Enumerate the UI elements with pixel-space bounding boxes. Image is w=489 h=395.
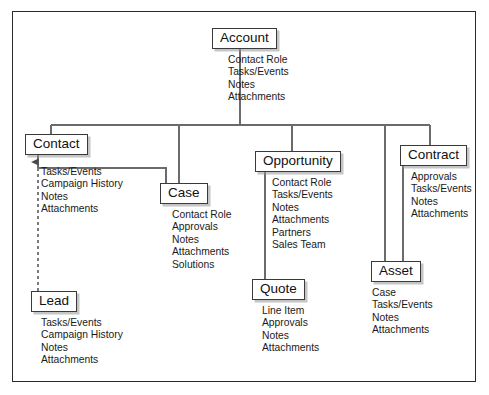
list-item: Attachments bbox=[272, 214, 333, 226]
list-item: Tasks/Events bbox=[372, 299, 433, 311]
node-quote-items: Line Item Approvals Notes Attachments bbox=[262, 305, 319, 355]
list-item: Attachments bbox=[372, 324, 433, 336]
list-item: Notes bbox=[41, 191, 123, 203]
list-item: Attachments bbox=[41, 203, 123, 215]
node-asset-items: Case Tasks/Events Notes Attachments bbox=[372, 287, 433, 337]
list-item: Attachments bbox=[228, 91, 289, 103]
list-item: Tasks/Events bbox=[228, 66, 289, 78]
list-item: Tasks/Events bbox=[411, 183, 472, 195]
node-account-items: Contact Role Tasks/Events Notes Attachme… bbox=[228, 54, 289, 104]
node-account-label[interactable]: Account bbox=[212, 28, 277, 49]
list-item: Contact Role bbox=[172, 209, 232, 221]
list-item: Notes bbox=[372, 312, 433, 324]
list-item: Line Item bbox=[262, 305, 319, 317]
list-item: Tasks/Events bbox=[41, 166, 123, 178]
node-quote-label[interactable]: Quote bbox=[252, 279, 305, 300]
diagram-canvas: Account Contact Role Tasks/Events Notes … bbox=[0, 0, 489, 395]
list-item: Tasks/Events bbox=[41, 317, 123, 329]
node-contract-label[interactable]: Contract bbox=[400, 145, 467, 166]
list-item: Attachments bbox=[411, 208, 472, 220]
list-item: Notes bbox=[41, 342, 123, 354]
list-item: Notes bbox=[262, 330, 319, 342]
node-opportunity-label[interactable]: Opportunity bbox=[255, 151, 341, 172]
list-item: Partners bbox=[272, 227, 333, 239]
list-item: Approvals bbox=[262, 317, 319, 329]
list-item: Attachments bbox=[172, 246, 232, 258]
list-item: Notes bbox=[411, 196, 472, 208]
list-item: Contact Role bbox=[272, 177, 333, 189]
list-item: Sales Team bbox=[272, 239, 333, 251]
node-contact-label[interactable]: Contact bbox=[25, 134, 88, 155]
list-item: Campaign History bbox=[41, 178, 123, 190]
node-contract-items: Approvals Tasks/Events Notes Attachments bbox=[411, 171, 472, 221]
list-item: Tasks/Events bbox=[272, 189, 333, 201]
list-item: Notes bbox=[172, 234, 232, 246]
node-lead-label[interactable]: Lead bbox=[31, 291, 77, 312]
node-contact-items: Tasks/Events Campaign History Notes Atta… bbox=[41, 166, 123, 216]
list-item: Notes bbox=[272, 202, 333, 214]
node-case-items: Contact Role Approvals Notes Attachments… bbox=[172, 209, 232, 271]
node-case-label[interactable]: Case bbox=[160, 183, 208, 204]
list-item: Solutions bbox=[172, 259, 232, 271]
list-item: Attachments bbox=[41, 354, 123, 366]
list-item: Case bbox=[372, 287, 433, 299]
list-item: Contact Role bbox=[228, 54, 289, 66]
node-lead-items: Tasks/Events Campaign History Notes Atta… bbox=[41, 317, 123, 367]
list-item: Attachments bbox=[262, 342, 319, 354]
list-item: Notes bbox=[228, 79, 289, 91]
list-item: Approvals bbox=[172, 221, 232, 233]
node-asset-label[interactable]: Asset bbox=[371, 261, 421, 282]
list-item: Approvals bbox=[411, 171, 472, 183]
node-opportunity-items: Contact Role Tasks/Events Notes Attachme… bbox=[272, 177, 333, 251]
list-item: Campaign History bbox=[41, 329, 123, 341]
